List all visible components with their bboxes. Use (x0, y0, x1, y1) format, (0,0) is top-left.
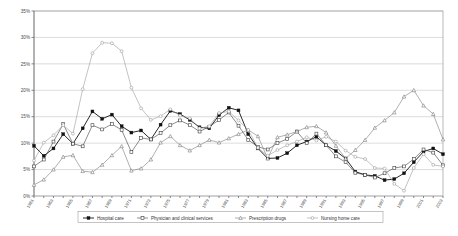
data-point-marker (286, 144, 289, 147)
data-point-marker (354, 171, 357, 174)
data-point-marker (315, 135, 318, 138)
x-axis-tick-label: 1989 (298, 198, 307, 209)
data-point-marker (364, 173, 367, 176)
data-point-marker (325, 135, 328, 138)
data-point-marker (110, 123, 113, 126)
data-point-marker (247, 128, 250, 131)
data-point-marker (42, 154, 45, 157)
data-point-marker (198, 130, 201, 133)
data-point-marker (169, 134, 172, 137)
data-point-marker (110, 113, 113, 116)
data-point-marker (91, 52, 94, 55)
data-point-marker (383, 179, 386, 182)
series-hospital-care (33, 106, 445, 181)
legend-label: Physician and clinical services (151, 216, 213, 221)
x-axis-tick-label: 1999 (396, 198, 405, 209)
data-point-marker (324, 131, 327, 134)
data-point-marker (227, 137, 230, 140)
legend-label: Nursing home care (321, 216, 360, 221)
data-point-marker (393, 178, 396, 181)
data-point-marker (442, 165, 445, 168)
x-axis-tick-label: 1981 (220, 198, 229, 209)
y-axis-tick-label: 20% (21, 88, 30, 93)
x-axis-tick-label: 1963 (45, 198, 54, 209)
data-point-marker (266, 154, 269, 157)
data-point-marker (42, 158, 45, 161)
data-point-marker (110, 42, 113, 45)
data-point-marker (179, 114, 182, 117)
data-point-marker (315, 124, 318, 127)
data-point-marker (159, 141, 162, 144)
legend-label: Hospital care (97, 216, 124, 221)
data-point-marker (383, 172, 386, 175)
y-axis-tick-label: 0% (23, 194, 30, 199)
legend-marker-icon (141, 217, 144, 220)
x-axis-tick-label: 1983 (240, 198, 249, 209)
data-point-marker (403, 172, 406, 175)
data-point-marker (120, 128, 123, 131)
data-point-marker (295, 144, 298, 147)
data-point-marker (373, 167, 376, 170)
x-axis-tick-label: 1975 (162, 198, 171, 209)
data-point-marker (276, 156, 279, 159)
data-point-marker (81, 127, 84, 130)
data-point-marker (286, 152, 289, 155)
data-point-marker (295, 140, 298, 143)
y-axis-tick-label: 25% (21, 62, 30, 67)
x-axis-tick-label: 1993 (337, 198, 346, 209)
x-axis-tick-label: 1997 (376, 198, 385, 209)
chart-legend: Hospital carePhysician and clinical serv… (78, 212, 383, 223)
data-point-marker (422, 148, 425, 151)
data-point-marker (432, 163, 435, 166)
x-axis-tick-label: 1977 (181, 198, 190, 209)
data-point-marker (32, 183, 35, 186)
data-point-marker (149, 138, 152, 141)
data-point-marker (247, 139, 250, 142)
data-point-marker (130, 86, 133, 89)
data-point-marker (257, 146, 260, 149)
y-axis-tick-label: 5% (23, 167, 30, 172)
x-axis-tick-label: 1979 (201, 198, 210, 209)
data-point-marker (72, 132, 75, 135)
data-point-marker (71, 153, 74, 156)
data-point-marker (373, 176, 376, 179)
data-point-marker (403, 189, 406, 192)
data-point-marker (422, 153, 425, 156)
data-point-marker (432, 147, 435, 150)
data-point-marker (149, 158, 152, 161)
data-point-marker (169, 124, 172, 127)
data-point-marker (120, 125, 123, 128)
x-axis-tick-label: 1991 (318, 198, 327, 209)
data-point-marker (315, 139, 318, 142)
data-point-marker (334, 150, 337, 153)
data-point-marker (276, 149, 279, 152)
data-point-marker (441, 138, 444, 141)
data-point-marker (101, 41, 104, 44)
legend-marker-icon (311, 217, 314, 220)
x-axis-tick-label: 1987 (279, 198, 288, 209)
data-point-marker (159, 115, 162, 118)
y-axis-tick-label: 10% (21, 141, 30, 146)
data-point-marker (140, 136, 143, 139)
data-point-marker (218, 118, 221, 121)
y-axis-tick-label: 35% (21, 9, 30, 14)
data-point-marker (188, 117, 191, 120)
data-point-marker (81, 145, 84, 148)
data-point-marker (91, 124, 94, 127)
data-point-marker (140, 129, 143, 132)
data-point-marker (334, 155, 337, 158)
data-point-marker (42, 141, 45, 144)
data-point-marker (237, 109, 240, 112)
y-axis-tick-label: 15% (21, 114, 30, 119)
series-line (34, 112, 443, 177)
data-point-marker (52, 140, 55, 143)
x-axis-tick-label: 1967 (84, 198, 93, 209)
y-axis-tick-label: 30% (21, 35, 30, 40)
data-point-marker (140, 107, 143, 110)
x-axis-tick-labels: 1961196319651967196919711973197519771979… (26, 198, 444, 209)
data-point-marker (393, 111, 396, 114)
data-point-marker (256, 134, 259, 137)
data-point-marker (120, 50, 123, 53)
data-point-marker (373, 126, 376, 129)
data-point-marker (305, 142, 308, 145)
